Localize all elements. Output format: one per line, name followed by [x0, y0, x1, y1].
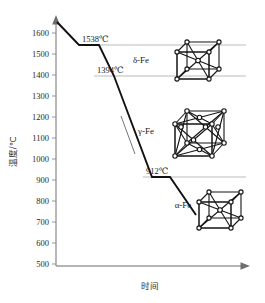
annotation-912: 912℃	[146, 166, 168, 176]
y-tick-label: 1400	[32, 70, 49, 80]
y-tick-label: 600	[36, 238, 49, 248]
phase-label-alpha: α-Fe	[175, 200, 192, 210]
fcc-unit-cell-gamma	[173, 109, 226, 158]
y-axis-ticks: 1600 1500 1400 1300 1200 1100 1000 900 8…	[32, 28, 56, 269]
y-axis-title: 温度/℃	[8, 136, 18, 167]
bcc-unit-cell-delta	[175, 40, 221, 81]
annotation-1538: 1538℃	[82, 34, 109, 44]
phase-label-gamma: γ-Fe	[137, 126, 154, 136]
y-axis	[52, 15, 60, 266]
y-tick-label: 1500	[32, 49, 49, 59]
chart-figure: 1600 1500 1400 1300 1200 1100 1000 900 8…	[0, 0, 265, 303]
bcc-unit-cell-alpha	[197, 190, 243, 230]
y-tick-label: 1300	[32, 91, 49, 101]
y-tick-label: 800	[36, 196, 49, 206]
y-tick-label: 500	[36, 259, 49, 269]
y-tick-label: 1200	[32, 112, 49, 122]
annotation-1394: 1394℃	[97, 65, 124, 75]
y-tick-label: 1600	[32, 28, 49, 38]
x-axis-title: 时间	[141, 281, 159, 291]
y-tick-label: 700	[36, 217, 49, 227]
y-tick-label: 1000	[32, 154, 49, 164]
curve-hint-marks	[121, 116, 135, 154]
y-tick-label: 1100	[32, 133, 49, 143]
x-axis-arrow-icon	[241, 262, 251, 270]
iron-cooling-curve-chart: 1600 1500 1400 1300 1200 1100 1000 900 8…	[0, 0, 265, 303]
y-tick-label: 900	[36, 175, 49, 185]
phase-label-delta: δ-Fe	[133, 55, 149, 65]
x-axis	[56, 262, 250, 270]
